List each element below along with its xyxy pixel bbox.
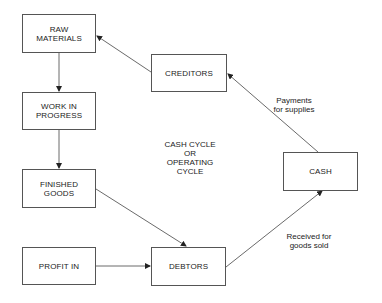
node-debtors: DEBTORS <box>151 247 226 286</box>
node-profit-in: PROFIT IN <box>22 247 96 285</box>
edge-label-received: Received for goods sold <box>279 232 339 250</box>
arrow-creditors-to-raw <box>97 36 151 72</box>
arrow-finished-to-debtors <box>96 189 186 246</box>
center-label: CASH CYCLE OR OPERATING CYCLE <box>150 140 230 176</box>
edge-label-payments: Payments for supplies <box>264 96 324 114</box>
node-work-in-progress: WORK INPROGRESS <box>22 92 96 130</box>
node-cash: CASH <box>283 152 358 191</box>
node-creditors: CREDITORS <box>151 54 227 92</box>
node-finished-goods: FINISHEDGOODS <box>22 169 96 208</box>
node-raw-materials: RAWMATERIALS <box>22 14 96 53</box>
arrow-debtors-to-cash <box>226 191 322 267</box>
